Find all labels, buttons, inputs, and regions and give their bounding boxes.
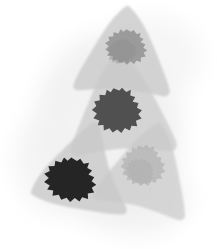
abstract-shape-figure [0, 0, 217, 249]
figure-root [0, 0, 217, 249]
